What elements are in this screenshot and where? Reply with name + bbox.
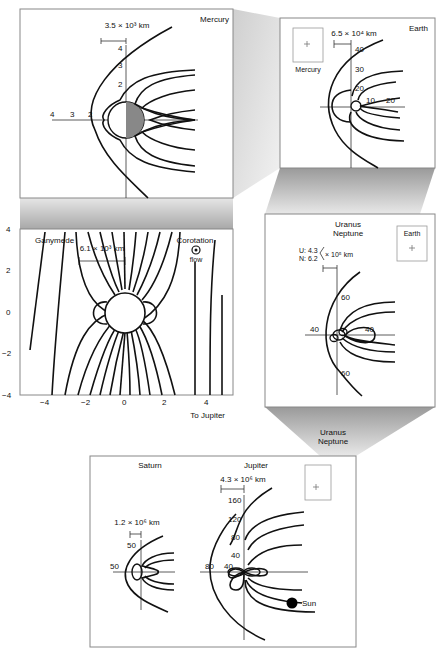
svg-text:−4: −4 [40,398,50,407]
magnetosphere-comparison-figure: Mercury 3.5 × 10³ km 4 3 2 4 3 2 Earth M… [0,0,442,649]
outer-inset-title-1: Uranus [320,428,346,437]
sun-icon [287,598,298,609]
svg-text:4: 4 [6,225,11,234]
ganymede-y-ticks: 4 2 0 −2 −4 [2,225,12,400]
svg-text:4: 4 [118,44,123,53]
jupiter-scale: 4.3 × 10⁶ km [220,475,266,484]
saturn-title: Saturn [138,461,162,470]
saturn-scale: 1.2 × 10⁶ km [114,518,160,527]
saturn-y-tick: 50 [127,541,136,550]
earth-inset-label: Mercury [295,66,321,74]
uranus-title: Uranus [335,220,361,229]
svg-text:2: 2 [162,398,167,407]
svg-text:40: 40 [310,325,319,334]
svg-text:60: 60 [341,369,350,378]
corotation-label: Corotation [177,236,214,245]
ganymede-x-ticks: −4 −2 0 2 4 [40,398,209,407]
jupiter-title: Jupiter [244,461,268,470]
neptune-title: Neptune [333,229,364,238]
ganymede-panel: Ganymede 6.1 × 10³ km Corotation flow 4 … [2,225,233,420]
svg-text:160: 160 [228,496,242,505]
neptune-scale: N: 6.2 [299,255,318,262]
ganymede-scale: 6.1 × 10³ km [80,244,125,253]
svg-text:4: 4 [50,110,55,119]
earth-title: Earth [409,24,428,33]
saturn-x-tick: 50 [110,562,119,571]
uranus-inset-label: Earth [404,230,421,237]
svg-text:60: 60 [341,293,350,302]
mercury-inset [293,28,323,62]
uranus-neptune-panel: Uranus Neptune Earth U: 4.3 N: 6.2 × 10⁵… [265,214,435,407]
uranus-inset [305,465,331,500]
mercury-panel: Mercury 3.5 × 10³ km 4 3 2 4 3 2 [20,9,233,198]
sun-label: Sun [302,599,316,608]
svg-text:0: 0 [6,308,11,317]
saturn-jupiter-panel: Saturn Jupiter Uranus Neptune 1.2 × 10⁶ … [90,428,356,647]
earth-scale: 6.5 × 10⁴ km [331,29,377,38]
svg-text:−4: −4 [2,391,12,400]
to-jupiter-label: To Jupiter [190,411,225,420]
flow-label: flow [190,256,203,263]
earth-panel: Earth Mercury 6.5 × 10⁴ km 40 30 20 10 2… [280,18,435,168]
uranus-scale-unit: × 10⁵ km [325,251,353,258]
svg-text:30: 30 [355,65,364,74]
svg-text:0: 0 [122,398,127,407]
svg-text:2: 2 [118,80,123,89]
svg-text:4: 4 [204,398,209,407]
uranus-scale: U: 4.3 [299,247,318,254]
svg-text:3: 3 [70,110,75,119]
outer-inset-title-2: Neptune [318,437,349,446]
svg-text:40: 40 [231,551,240,560]
ganymede-title: Ganymede [35,236,75,245]
mercury-scale: 3.5 × 10³ km [105,21,150,30]
svg-text:2: 2 [6,266,11,275]
svg-text:−2: −2 [81,398,91,407]
mercury-title: Mercury [200,15,229,24]
svg-text:−2: −2 [2,349,12,358]
